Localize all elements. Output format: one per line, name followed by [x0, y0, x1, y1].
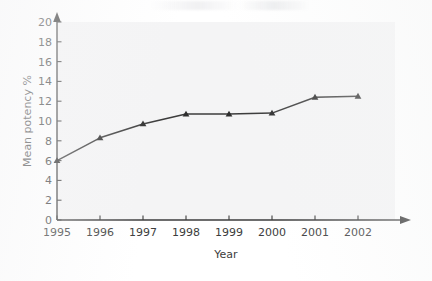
x-tick-label: 1997: [129, 226, 157, 239]
y-tick-label: 10: [38, 115, 52, 128]
y-tick-label: 20: [38, 16, 52, 29]
chart-figure: 0 2 4 6 8 10 12 14 16 18 20 1995 1996: [0, 0, 432, 281]
y-tick-label: 8: [45, 135, 52, 148]
y-tick-label: 14: [38, 75, 52, 88]
x-tick-label: 1995: [43, 226, 71, 239]
y-axis-title: Mean potency %: [21, 75, 34, 167]
y-tick-label: 18: [38, 36, 52, 49]
x-tick-label: 1999: [215, 226, 243, 239]
x-tick-labels: 1995 1996 1997 1998 1999 2000 2001 2002: [43, 226, 372, 239]
x-axis-arrow-icon: [400, 216, 411, 224]
y-tick-labels: 0 2 4 6 8 10 12 14 16 18 20: [38, 16, 52, 227]
y-tick-label: 4: [45, 174, 52, 187]
y-tick-label: 16: [38, 56, 52, 69]
x-tick-label: 1996: [86, 226, 114, 239]
x-tick-label: 2002: [344, 226, 372, 239]
line-chart: 0 2 4 6 8 10 12 14 16 18 20 1995 1996: [0, 0, 432, 281]
y-tick-label: 2: [45, 194, 52, 207]
y-tick-label: 6: [45, 155, 52, 168]
x-axis-title: Year: [213, 248, 238, 261]
x-tick-label: 2000: [258, 226, 286, 239]
x-tick-label: 2001: [301, 226, 329, 239]
plot-background: [57, 22, 395, 220]
y-axis-arrow-icon: [53, 12, 61, 22]
y-tick-label: 12: [38, 95, 52, 108]
x-tick-label: 1998: [172, 226, 200, 239]
